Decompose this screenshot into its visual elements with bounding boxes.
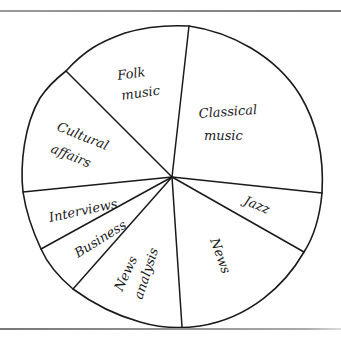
label-business: Business xyxy=(71,217,129,261)
label-news-analysis-line2: analysis xyxy=(131,246,162,301)
divider-folk-classical xyxy=(172,26,189,177)
label-interviews: Interviews xyxy=(47,196,120,225)
divider-news-newsanalysis xyxy=(172,177,182,327)
label-folk-line2: music xyxy=(120,83,161,103)
label-jazz: Jazz xyxy=(239,192,272,217)
label-classical-line2: music xyxy=(204,128,244,143)
pie-chart: Folk music Classical music Cultural affa… xyxy=(0,0,341,350)
bottom-divider-line xyxy=(0,328,341,330)
label-classical-line1: Classical xyxy=(198,102,257,121)
slice-dividers xyxy=(23,26,322,327)
label-news: News xyxy=(207,235,234,276)
label-folk-line1: Folk xyxy=(115,64,146,83)
